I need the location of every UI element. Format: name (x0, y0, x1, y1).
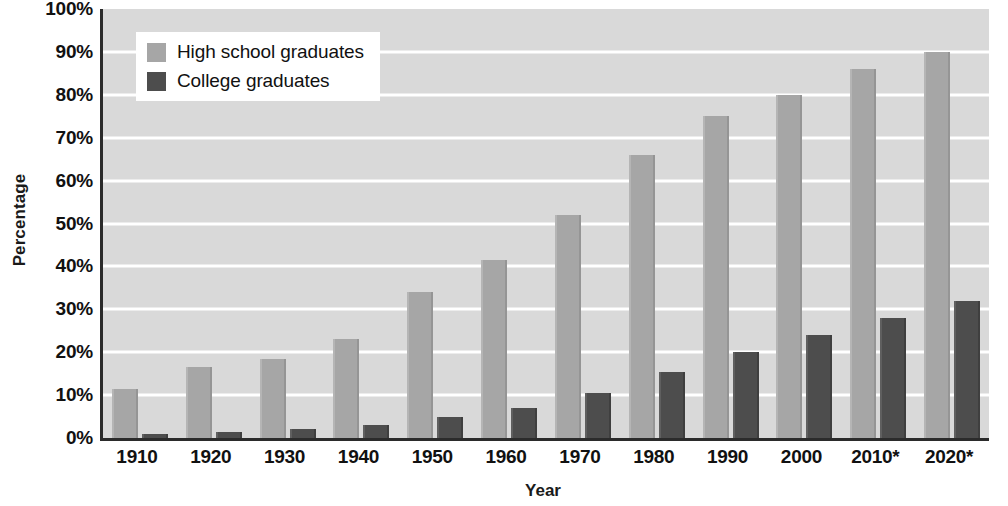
bar-high-school (407, 292, 433, 438)
bar-high-school (924, 52, 950, 438)
x-tick-label: 1910 (116, 446, 157, 468)
bar-college (954, 301, 980, 438)
x-tick-label: 1940 (338, 446, 379, 468)
x-tick-label: 1930 (264, 446, 305, 468)
y-tick-label: 80% (56, 84, 93, 106)
legend-label: High school graduates (177, 41, 364, 63)
bar-group (398, 9, 472, 438)
bar-college (659, 372, 685, 438)
bar-chart: Percentage 0%10%20%30%40%50%60%70%80%90%… (0, 0, 1008, 506)
legend-swatch-col (147, 72, 166, 91)
bar-college (733, 352, 759, 438)
bar-college (363, 425, 389, 438)
y-tick-label: 60% (56, 170, 93, 192)
bar-high-school (333, 339, 359, 438)
bar-high-school (481, 260, 507, 438)
x-tick-label: 1920 (190, 446, 231, 468)
bar-college (511, 408, 537, 438)
x-tick-label: 1970 (559, 446, 600, 468)
x-tick-label: 1980 (633, 446, 674, 468)
bar-college (585, 393, 611, 438)
bar-high-school (703, 116, 729, 438)
x-tick-label: 2020* (925, 446, 973, 468)
bar-high-school (629, 155, 655, 438)
y-tick-label: 20% (56, 341, 93, 363)
bar-group (620, 9, 694, 438)
x-axis-tick-labels: 1910192019301940195019601970198019902000… (100, 446, 986, 478)
bar-college (290, 429, 316, 438)
bar-group (694, 9, 768, 438)
bar-college (142, 434, 168, 438)
y-tick-label: 100% (45, 0, 93, 20)
x-tick-label: 1990 (707, 446, 748, 468)
bar-high-school (186, 367, 212, 438)
bar-group (768, 9, 842, 438)
legend-swatch-hs (147, 43, 166, 62)
x-axis-title: Year (100, 481, 986, 501)
y-tick-label: 90% (56, 41, 93, 63)
bar-high-school (555, 215, 581, 438)
y-tick-label: 50% (56, 213, 93, 235)
legend-item: High school graduates (147, 41, 364, 63)
bar-college (216, 432, 242, 438)
legend-label: College graduates (177, 70, 330, 92)
bar-group (841, 9, 915, 438)
y-tick-label: 40% (56, 255, 93, 277)
y-tick-label: 70% (56, 127, 93, 149)
bar-group (472, 9, 546, 438)
bar-group (546, 9, 620, 438)
bar-college (806, 335, 832, 438)
y-axis-title-text: Percentage (10, 174, 30, 267)
y-tick-label: 10% (56, 384, 93, 406)
x-tick-label: 2000 (781, 446, 822, 468)
y-tick-label: 0% (66, 427, 93, 449)
legend: High school graduatesCollege graduates (136, 32, 380, 101)
bar-college (437, 417, 463, 438)
x-tick-label: 2010* (851, 446, 899, 468)
y-tick-label: 30% (56, 298, 93, 320)
bar-college (880, 318, 906, 438)
y-axis-tick-labels: 0%10%20%30%40%50%60%70%80%90%100% (34, 0, 97, 448)
bar-high-school (112, 389, 138, 438)
bar-high-school (850, 69, 876, 438)
bar-high-school (776, 95, 802, 438)
bar-group (915, 9, 989, 438)
bar-high-school (260, 359, 286, 438)
x-tick-label: 1960 (486, 446, 527, 468)
legend-item: College graduates (147, 70, 364, 92)
x-tick-label: 1950 (412, 446, 453, 468)
